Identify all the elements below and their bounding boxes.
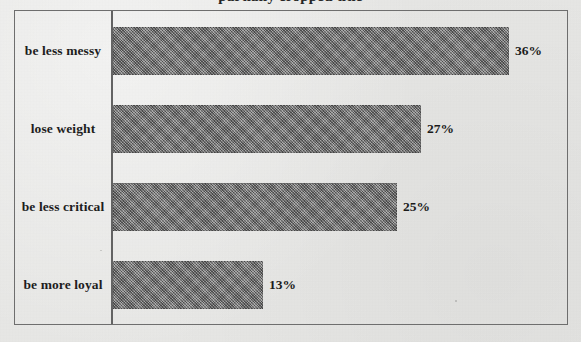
value-label-be-less-messy: 36% [515,43,542,59]
value-label-be-more-loyal: 13% [269,277,296,293]
bar-be-less-critical [113,183,397,231]
category-label-be-more-loyal: be more loyal [16,246,110,324]
bar-chart-screenshot: partially cropped title be less messy 36… [0,0,581,342]
value-label-be-less-critical: 25% [403,199,430,215]
chart-title: partially cropped title [0,0,581,5]
bar-row: be less messy 36% [16,12,581,90]
category-label-lose-weight: lose weight [16,90,110,168]
bar-row: lose weight 27% [16,90,581,168]
category-label-be-less-messy: be less messy [16,12,110,90]
value-label-lose-weight: 27% [427,121,454,137]
category-label-be-less-critical: be less critical [16,168,110,246]
bar-be-more-loyal [113,261,263,309]
chart-title-clipped-region: partially cropped title [0,0,581,8]
bar-track: 27% [113,90,581,168]
bar-track: 36% [113,12,581,90]
bar-row: be less critical 25% [16,168,581,246]
bar-be-less-messy [113,27,509,75]
bar-track: 13% [113,246,581,324]
bar-track: 25% [113,168,581,246]
bar-row: be more loyal 13% [16,246,581,324]
bar-lose-weight [113,105,421,153]
